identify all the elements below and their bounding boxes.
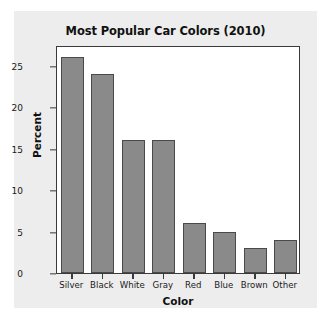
bar-gray [152,140,175,273]
bar-black [91,74,114,273]
x-axis-label: Color [56,295,300,307]
plot-area [57,47,299,273]
chart-title: Most Popular Car Colors (2010) [14,24,317,38]
bar-red [183,223,206,273]
x-tick-label: Brown [241,280,268,290]
chart-figure: Most Popular Car Colors (2010) Percent 0… [0,0,331,320]
y-tick-label: 0 [0,269,23,279]
x-tick-label: Gray [152,280,173,290]
y-tick-label: 20 [0,103,23,113]
x-tick-mark [71,274,72,279]
x-tick-mark [193,274,194,279]
figure-panel: Most Popular Car Colors (2010) Percent 0… [14,11,317,308]
bar-brown [244,248,267,273]
bar-silver [61,57,84,273]
x-tick-mark [254,274,255,279]
x-tick-label: Black [90,280,113,290]
x-tick-mark [132,274,133,279]
plot-frame [56,46,300,274]
y-tick-label: 25 [0,62,23,72]
x-tick-label: Silver [59,280,83,290]
bar-blue [213,232,236,273]
y-tick-label: 5 [0,228,23,238]
bar-white [122,140,145,273]
x-tick-label: Red [185,280,201,290]
x-tick-mark [285,274,286,279]
x-tick-mark [163,274,164,279]
y-axis-label: Percent [31,95,43,175]
y-tick-label: 10 [0,186,23,196]
x-tick-label: Other [273,280,297,290]
x-tick-label: Blue [214,280,233,290]
bar-other [274,240,297,273]
x-tick-label: White [120,280,145,290]
y-tick-label: 15 [0,145,23,155]
x-tick-mark [224,274,225,279]
x-tick-mark [102,274,103,279]
